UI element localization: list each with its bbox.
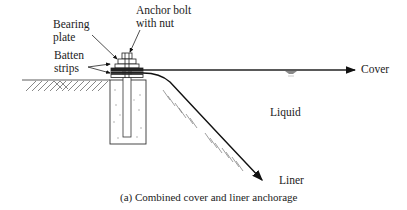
anchor-bolt-label: Anchor bolt with nut	[136, 4, 191, 30]
liquid-label: Liquid	[270, 106, 301, 119]
ground-hatching	[22, 80, 110, 91]
bearing-plate-label-line2: plate	[53, 31, 89, 44]
anchor-bolt-label-line1: Anchor bolt	[136, 4, 191, 17]
water-level-icon	[285, 71, 297, 76]
anchor-bolt-label-line2: with nut	[136, 17, 191, 30]
batten-strips-label-line2: strips	[54, 62, 84, 75]
batten-strips-label-line1: Batten	[54, 49, 84, 62]
bearing-plate-label: Bearing plate	[53, 18, 89, 44]
bearing-plate-label-line1: Bearing	[53, 18, 89, 31]
cover-label: Cover	[361, 63, 389, 76]
anchor-bolt-leader	[130, 30, 140, 52]
liner-label: Liner	[279, 174, 304, 187]
bearing-plate-leader	[92, 35, 117, 59]
batten-strips-label: Batten strips	[54, 49, 84, 75]
bolt-assembly	[111, 53, 143, 78]
slope-hatching	[163, 90, 243, 171]
batten-leader-2	[88, 67, 110, 73]
figure-caption: (a) Combined cover and liner anchorage	[120, 191, 297, 204]
liner-line	[143, 73, 262, 180]
batten-leader-1	[88, 64, 110, 67]
